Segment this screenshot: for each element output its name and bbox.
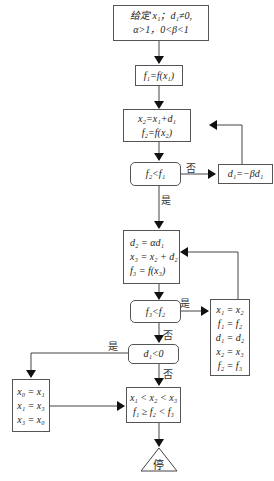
- stop-label: 停: [153, 456, 164, 472]
- cond1-no-label: 否: [186, 160, 196, 175]
- cond2-text: f₃<f₂: [146, 305, 165, 319]
- start-box: 给定 x₁；d₁≠0, α>1，0<β<1: [113, 5, 209, 41]
- swap-line: x₀ = x₁: [17, 385, 45, 399]
- cond1-yes-label: 是: [161, 192, 171, 207]
- reverse-box: d₁=−βd₁: [218, 164, 273, 184]
- cond3-text: d₁<0: [143, 347, 163, 361]
- step-line-1: x₂=x₁+d₁: [138, 112, 176, 126]
- reverse-text: d₁=−βd₁: [228, 167, 263, 181]
- expand-line-2: x₃ = x₂ + d₂: [130, 250, 178, 264]
- step-box: x₂=x₁+d₁ f₂=f(x₂): [123, 109, 191, 142]
- cond1-text: f₂<f₁: [146, 167, 165, 181]
- f1-text: f₁=f(x₁): [144, 69, 174, 83]
- cond3-no-label: 否: [163, 366, 173, 381]
- cond1-decision: f₂<f₁: [130, 162, 181, 186]
- expand-box: d₂ = αd₁ x₃ = x₂ + d₂ f₃ = f(x₃): [123, 230, 180, 284]
- cond3-yes-label: 是: [108, 338, 118, 353]
- swap-box: x₀ = x₁ x₁ = x₃ x₃ = x₀: [12, 379, 50, 432]
- swap-line: x₃ = x₀: [17, 413, 45, 427]
- result-line-2: f₁ ≥ f₂ < f₃: [133, 405, 174, 419]
- cond2-yes-label: 是: [180, 295, 190, 310]
- result-box: x₁ < x₂ < x₃ f₁ ≥ f₂ < f₃: [126, 387, 181, 423]
- cond3-decision: d₁<0: [128, 344, 179, 364]
- step-line-2: f₂=f(x₂): [142, 126, 172, 140]
- shift-line: f₁ = f₂: [218, 317, 242, 331]
- shift-line: x₂ = x₃: [216, 345, 244, 359]
- start-line-2: α>1，0<β<1: [133, 23, 188, 37]
- expand-line-1: d₂ = αd₁: [130, 236, 164, 250]
- f1-box: f₁=f(x₁): [135, 65, 183, 86]
- expand-line-3: f₃ = f(x₃): [130, 264, 165, 278]
- shift-line: f₂ = f₃: [218, 359, 242, 373]
- start-line-1: 给定 x₁；d₁≠0,: [130, 9, 192, 23]
- shift-box: x₁ = x₂ f₁ = f₂ d₁ = d₂ x₂ = x₃ f₂ = f₃: [210, 299, 250, 376]
- result-line-1: x₁ < x₂ < x₃: [130, 391, 177, 405]
- shift-line: x₁ = x₂: [216, 303, 244, 317]
- shift-line: d₁ = d₂: [216, 331, 245, 345]
- cond2-no-label: 否: [163, 327, 173, 342]
- swap-line: x₁ = x₃: [17, 399, 45, 413]
- cond2-decision: f₃<f₂: [130, 300, 181, 323]
